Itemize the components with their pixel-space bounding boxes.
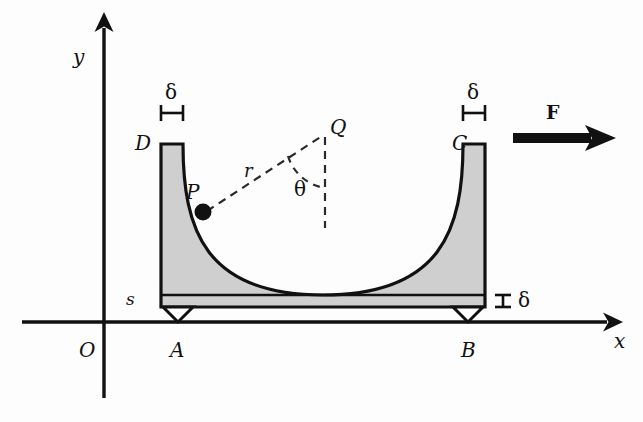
delta-label-top-left: δ [165, 82, 177, 102]
force-arrow-F [513, 125, 616, 151]
force-label: F [546, 103, 560, 122]
angle-label-theta: θ [294, 179, 306, 199]
trough-force-diagram: y x O A B C D P Q r θ F δ δ δ s [0, 0, 643, 422]
support-group [163, 307, 483, 322]
point-label-A: A [170, 340, 184, 360]
thickness-label-s: s [126, 291, 135, 308]
y-axis-label: y [73, 47, 84, 67]
point-label-P: P [186, 182, 199, 202]
diagram-canvas [0, 0, 643, 422]
trough-fill-and-outline [161, 144, 485, 307]
support-triangle-A [163, 307, 193, 322]
x-axis-label: x [614, 331, 625, 351]
support-triangle-B [453, 307, 483, 322]
delta-dimension-base [495, 295, 511, 307]
delta-dimension-right [463, 105, 485, 121]
delta-dimension-left [161, 105, 183, 121]
radius-label: r [244, 162, 253, 180]
particle-dot-P [195, 204, 212, 221]
delta-label-top-right: δ [467, 82, 479, 102]
origin-label: O [79, 340, 95, 360]
point-label-B: B [461, 340, 476, 360]
point-label-C: C [452, 133, 467, 153]
point-label-Q: Q [330, 117, 346, 137]
point-label-D: D [135, 133, 151, 153]
trough-body [161, 144, 485, 307]
axis-group [22, 12, 623, 398]
delta-label-base: δ [518, 290, 530, 310]
